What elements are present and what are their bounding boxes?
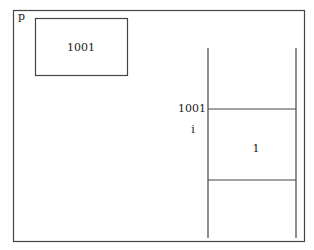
memory-variable-label: i [191,123,195,136]
pointer-box-value: 1001 [67,41,95,54]
memory-diagram: p 1001 1001 i 1 [0,0,314,250]
outer-frame [14,11,305,242]
memory-cell-value: 1 [253,142,260,155]
memory-address-label: 1001 [178,102,206,115]
frame-label: p [18,10,25,23]
